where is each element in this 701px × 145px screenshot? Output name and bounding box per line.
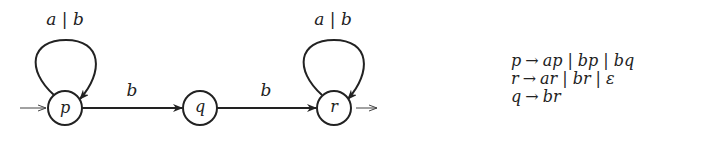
rule-alternative: br [543,87,561,106]
rule-lhs: r [511,69,519,88]
rule-alternative: br [573,69,591,88]
alternative-separator: | [557,69,572,88]
state-r-label: r [330,97,339,116]
alternative-separator: | [591,69,606,88]
grammar-rule-r: r→ar|br|ε [511,70,634,88]
state-p: p [48,91,82,125]
state-q-label: q [195,97,205,116]
rule-lhs: q [511,87,521,106]
grammar-rules: p→ap|bp|bq r→ar|br|ε q→br [511,52,634,106]
alternative-separator: | [598,51,613,70]
grammar-rule-q: q→br [511,88,634,106]
rule-alternative: bq [614,51,634,70]
loop-p-label: a | b [46,9,84,29]
loop-r-label: a | b [314,9,352,29]
state-r: r [317,91,351,125]
rule-alternative: ar [540,69,557,88]
derives-arrow: → [521,51,542,70]
derives-arrow: → [521,87,542,106]
edge-p-q-label: b [127,80,138,100]
rule-alternative: bp [578,51,598,70]
state-q: q [183,91,217,125]
grammar-rule-p: p→ap|bp|bq [511,52,634,70]
rule-alternative: ap [543,51,563,70]
derives-arrow: → [519,69,540,88]
rule-lhs: p [511,51,521,70]
rule-alternative: ε [606,69,615,88]
state-p-label: p [60,98,70,117]
edge-q-r-label: b [261,80,272,100]
automaton-figure: a | b p b q b a | b r p→ap|bp|bq [0,0,701,145]
alternative-separator: | [562,51,577,70]
